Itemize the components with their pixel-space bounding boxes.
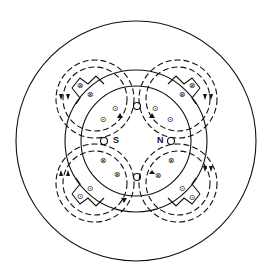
svg-text:⊗: ⊗ [77,81,84,90]
svg-text:⊗: ⊗ [87,90,94,99]
diagram-canvas: ⊗⊗ ⊙⊙ ⊗⊗ ⊙⊙ ⊗⊗ ⊙⊙ ⊗⊗ ⊙⊙ S N [0,0,271,277]
conductors: ⊗⊗ ⊙⊙ ⊗⊗ ⊙⊙ ⊗⊗ ⊙⊙ ⊗⊗ ⊙⊙ [77,81,196,202]
svg-text:⊙: ⊙ [179,184,186,193]
brush-right [168,138,175,145]
svg-text:⊙: ⊙ [152,104,159,113]
svg-text:⊗: ⊗ [168,156,175,165]
outer-frame-circle [16,21,256,261]
svg-text:⊙: ⊙ [112,104,119,113]
machine-cross-section: ⊗⊗ ⊙⊙ ⊗⊗ ⊙⊙ ⊗⊗ ⊙⊙ ⊗⊗ ⊙⊙ [0,0,271,277]
svg-text:⊙: ⊙ [167,115,174,124]
svg-text:⊙: ⊙ [77,192,84,201]
brush-left [101,138,108,145]
svg-text:⊙: ⊙ [100,115,107,124]
svg-text:⊗: ⊗ [114,170,121,179]
north-pole-label: N [157,135,164,145]
svg-text:⊙: ⊙ [87,184,94,193]
svg-text:⊗: ⊗ [100,156,107,165]
svg-text:⊗: ⊗ [155,171,162,180]
svg-text:⊗: ⊗ [189,81,196,90]
svg-text:⊙: ⊙ [189,193,196,202]
brush-top [134,103,141,110]
svg-text:⊗: ⊗ [179,90,186,99]
south-pole-label: S [113,135,119,145]
